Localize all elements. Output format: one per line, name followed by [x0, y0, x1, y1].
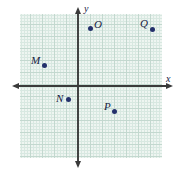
- point-label-o: O: [94, 19, 102, 30]
- point-label-m: M: [31, 55, 40, 66]
- x-axis-arrow-left: [12, 83, 19, 89]
- plot-point-p: [112, 109, 117, 114]
- plot-point-n: [66, 97, 71, 102]
- point-label-n: N: [56, 93, 63, 104]
- x-axis-label: x: [166, 74, 170, 84]
- y-axis-arrow-top: [75, 7, 81, 14]
- point-label-p: P: [104, 101, 111, 112]
- plot-point-m: [42, 63, 47, 68]
- coordinate-plane-figure: x y MNOPQ: [0, 0, 179, 172]
- plot-point-o: [88, 26, 93, 31]
- y-axis-label: y: [84, 4, 88, 14]
- plot-point-q: [150, 27, 155, 32]
- y-axis-arrow-bottom: [75, 161, 81, 168]
- point-label-q: Q: [140, 18, 148, 29]
